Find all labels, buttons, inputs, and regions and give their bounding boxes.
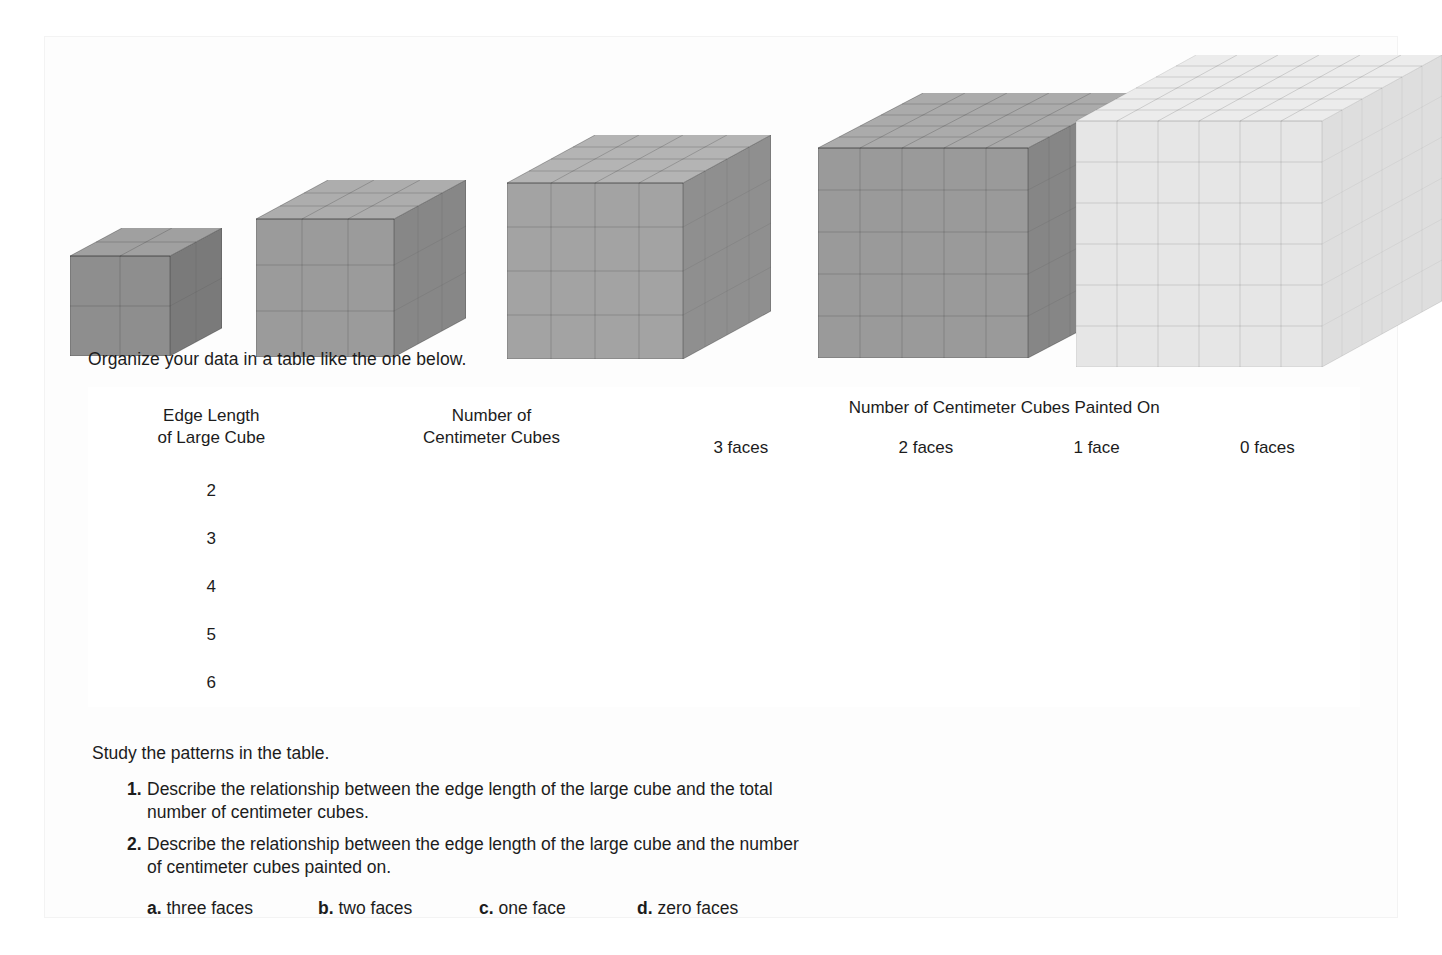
header-number-of-cubes: Number of Centimeter Cubes [335, 387, 649, 467]
cell-3-faces[interactable] [648, 563, 833, 611]
cell-1-face[interactable] [1018, 515, 1174, 563]
choice-b-label: b. [318, 898, 334, 918]
cell-0-faces[interactable] [1175, 515, 1360, 563]
cell-0-faces[interactable] [1175, 611, 1360, 659]
cell-edge-length: 3 [88, 515, 335, 563]
cell-1-face[interactable] [1018, 467, 1174, 515]
choice-a-label: a. [147, 898, 162, 918]
cell-number-of-cubes[interactable] [335, 467, 649, 515]
cell-1-face[interactable] [1018, 563, 1174, 611]
choice-a: a. three faces [147, 898, 318, 919]
cell-edge-length: 4 [88, 563, 335, 611]
header-0-faces: 0 faces [1175, 429, 1360, 467]
table-row: 4 [88, 563, 1360, 611]
choice-b-text: two faces [334, 898, 413, 918]
cube-data-table: Edge Length of Large Cube Number of Cent… [88, 387, 1360, 707]
cell-edge-length: 5 [88, 611, 335, 659]
cube-6-illustration [1076, 55, 1442, 367]
header-edge-length-line2: of Large Cube [157, 428, 265, 447]
cell-number-of-cubes[interactable] [335, 611, 649, 659]
question-2: 2. Describe the relationship between the… [127, 833, 807, 880]
table-body: 2 3 4 5 [88, 467, 1360, 707]
table-head: Edge Length of Large Cube Number of Cent… [88, 387, 1360, 467]
table-row: 3 [88, 515, 1360, 563]
question-1-number: 1. [127, 778, 142, 801]
cell-number-of-cubes[interactable] [335, 563, 649, 611]
cell-number-of-cubes[interactable] [335, 659, 649, 707]
cell-2-faces[interactable] [833, 467, 1018, 515]
cube-4-illustration [507, 135, 771, 359]
table-row: 2 [88, 467, 1360, 515]
header-number-of-cubes-line2: Centimeter Cubes [423, 428, 560, 447]
cell-1-face[interactable] [1018, 659, 1174, 707]
choice-c: c. one face [479, 898, 637, 919]
choice-c-text: one face [494, 898, 566, 918]
header-row-top: Edge Length of Large Cube Number of Cent… [88, 387, 1360, 429]
cube-illustration-row [0, 0, 1441, 340]
cube-2-illustration [70, 228, 222, 356]
cell-3-faces[interactable] [648, 467, 833, 515]
question-2-number: 2. [127, 833, 142, 856]
header-3-faces: 3 faces [648, 429, 833, 467]
study-instruction: Study the patterns in the table. [92, 743, 329, 764]
table-row: 6 [88, 659, 1360, 707]
cell-2-faces[interactable] [833, 659, 1018, 707]
header-1-face: 1 face [1018, 429, 1174, 467]
choice-c-label: c. [479, 898, 494, 918]
table-row: 5 [88, 611, 1360, 659]
question-1-text: Describe the relationship between the ed… [147, 778, 807, 825]
header-painted-on-group: Number of Centimeter Cubes Painted On [648, 387, 1360, 429]
header-2-faces: 2 faces [833, 429, 1018, 467]
cell-3-faces[interactable] [648, 515, 833, 563]
cube-3-illustration [256, 180, 466, 357]
choice-d-label: d. [637, 898, 653, 918]
cell-3-faces[interactable] [648, 611, 833, 659]
header-edge-length-line1: Edge Length [163, 406, 259, 425]
choice-d: d. zero faces [637, 898, 738, 919]
cell-0-faces[interactable] [1175, 563, 1360, 611]
header-number-of-cubes-line1: Number of [452, 406, 531, 425]
intro-instruction: Organize your data in a table like the o… [88, 349, 466, 370]
cell-1-face[interactable] [1018, 611, 1174, 659]
cell-2-faces[interactable] [833, 563, 1018, 611]
cell-0-faces[interactable] [1175, 467, 1360, 515]
choice-b: b. two faces [318, 898, 479, 919]
question-2-text: Describe the relationship between the ed… [147, 833, 807, 880]
cell-0-faces[interactable] [1175, 659, 1360, 707]
cell-edge-length: 6 [88, 659, 335, 707]
header-edge-length: Edge Length of Large Cube [88, 387, 335, 467]
cell-edge-length: 2 [88, 467, 335, 515]
cell-2-faces[interactable] [833, 611, 1018, 659]
choice-d-text: zero faces [653, 898, 739, 918]
cell-2-faces[interactable] [833, 515, 1018, 563]
choice-list: a. three facesb. two facesc. one faced. … [147, 898, 738, 919]
choice-a-text: three faces [162, 898, 253, 918]
cell-3-faces[interactable] [648, 659, 833, 707]
question-1: 1. Describe the relationship between the… [127, 778, 807, 825]
cell-number-of-cubes[interactable] [335, 515, 649, 563]
